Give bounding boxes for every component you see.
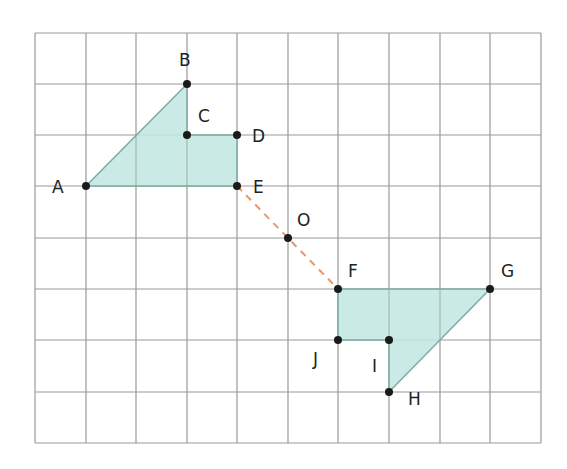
label-b: B bbox=[179, 50, 191, 70]
label-g: G bbox=[501, 261, 514, 281]
point-g bbox=[486, 285, 494, 293]
label-d: D bbox=[252, 126, 265, 146]
point-a bbox=[82, 182, 90, 190]
label-c: C bbox=[198, 106, 210, 126]
label-f: F bbox=[348, 261, 358, 281]
label-i: I bbox=[372, 356, 377, 376]
label-e: E bbox=[253, 177, 264, 197]
grid-diagram: A B C D E O F G H I J bbox=[0, 0, 567, 469]
point-c bbox=[183, 131, 191, 139]
point-f bbox=[334, 285, 342, 293]
point-o bbox=[284, 234, 292, 242]
point-d bbox=[233, 131, 241, 139]
label-h: H bbox=[408, 389, 421, 409]
point-h bbox=[385, 388, 393, 396]
point-j bbox=[334, 336, 342, 344]
point-e bbox=[233, 182, 241, 190]
label-j: J bbox=[312, 349, 318, 369]
label-a: A bbox=[52, 177, 64, 197]
point-i bbox=[385, 336, 393, 344]
point-b bbox=[183, 80, 191, 88]
label-o: O bbox=[297, 210, 310, 230]
